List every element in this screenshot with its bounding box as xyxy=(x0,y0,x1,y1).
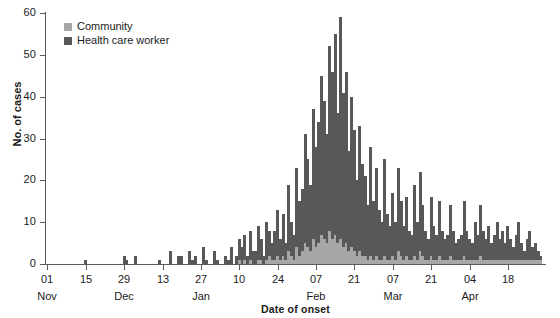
x-tick-label-8: 21 xyxy=(339,273,369,285)
y-tick-40 xyxy=(40,97,45,98)
x-tick-07-9 xyxy=(393,265,394,270)
y-tick-label-wrap: 60 xyxy=(0,7,36,18)
bar-segment-health-care-worker xyxy=(134,256,137,264)
x-month-label-dec: Dec xyxy=(104,290,144,302)
y-tick-label-wrap: 30 xyxy=(0,133,36,144)
x-month-label-apr: Apr xyxy=(450,290,490,302)
legend-item-community: Community xyxy=(64,20,169,33)
x-tick-label-0: 01 xyxy=(32,273,62,285)
x-month-label-feb: Feb xyxy=(296,290,336,302)
bar-stack xyxy=(180,256,183,264)
y-tick-50 xyxy=(40,55,45,56)
bar-segment-health-care-worker xyxy=(194,256,197,264)
bar-segment-health-care-worker xyxy=(180,256,183,264)
legend-swatch-health-care-worker xyxy=(64,37,72,45)
x-tick-label-12: 18 xyxy=(493,273,523,285)
bar-stack xyxy=(194,256,197,264)
x-tick-label-10: 21 xyxy=(416,273,446,285)
y-tick-0 xyxy=(40,264,45,265)
x-tick-18-12 xyxy=(508,265,509,270)
bar-stack xyxy=(134,256,137,264)
bar-stack xyxy=(84,260,87,264)
x-month-label-jan: Jan xyxy=(181,290,221,302)
bar-stack xyxy=(216,260,219,264)
x-tick-label-11: 04 xyxy=(455,273,485,285)
x-tick-04-11 xyxy=(470,265,471,270)
x-axis-title: Date of onset xyxy=(46,303,545,315)
x-tick-21-10 xyxy=(431,265,432,270)
x-tick-27-4 xyxy=(201,265,202,270)
y-tick-label-0: 0 xyxy=(8,258,36,269)
y-tick-label-50: 50 xyxy=(8,49,36,60)
y-tick-30 xyxy=(40,139,45,140)
bar-stack xyxy=(205,260,208,264)
bar-segment-health-care-worker xyxy=(158,260,161,264)
plot-area xyxy=(46,13,545,264)
bar-series-container xyxy=(46,13,545,264)
y-tick-label-wrap: 50 xyxy=(0,49,36,60)
y-tick-label-60: 60 xyxy=(8,7,36,18)
bar-segment-health-care-worker xyxy=(205,260,208,264)
x-tick-13-3 xyxy=(163,265,164,270)
y-tick-label-30: 30 xyxy=(8,133,36,144)
bar-stack xyxy=(125,260,128,264)
bar-stack xyxy=(169,251,172,264)
x-tick-24-6 xyxy=(278,265,279,270)
y-tick-label-wrap: 20 xyxy=(0,174,36,185)
x-tick-label-6: 24 xyxy=(263,273,293,285)
y-tick-label-wrap: 0 xyxy=(0,258,36,269)
bar-stack xyxy=(539,256,542,264)
bar-segment-health-care-worker xyxy=(125,260,128,264)
x-tick-29-2 xyxy=(124,265,125,270)
x-tick-15-1 xyxy=(86,265,87,270)
legend-label-health-care-worker: Health care worker xyxy=(77,35,169,46)
legend-label-community: Community xyxy=(77,21,133,32)
bar-segment-community xyxy=(539,260,542,264)
bar-segment-health-care-worker xyxy=(169,251,172,264)
y-axis-title: No. of cases xyxy=(11,64,23,164)
x-tick-label-7: 07 xyxy=(301,273,331,285)
x-month-label-mar: Mar xyxy=(373,290,413,302)
bar-segment-health-care-worker xyxy=(84,260,87,264)
x-tick-label-1: 15 xyxy=(71,273,101,285)
bar-segment-health-care-worker xyxy=(230,247,233,264)
bar-stack xyxy=(230,247,233,264)
x-tick-label-4: 27 xyxy=(186,273,216,285)
y-tick-10 xyxy=(40,222,45,223)
legend-item-health-care-worker: Health care worker xyxy=(64,34,169,47)
x-tick-label-3: 13 xyxy=(148,273,178,285)
y-tick-label-20: 20 xyxy=(8,174,36,185)
x-tick-10-5 xyxy=(239,265,240,270)
y-tick-60 xyxy=(40,13,45,14)
y-tick-label-40: 40 xyxy=(8,91,36,102)
x-tick-01-0 xyxy=(47,265,48,270)
x-tick-21-8 xyxy=(354,265,355,270)
y-tick-label-wrap: 10 xyxy=(0,216,36,227)
bar-segment-health-care-worker xyxy=(216,260,219,264)
x-tick-label-5: 10 xyxy=(224,273,254,285)
x-month-label-nov: Nov xyxy=(27,290,67,302)
bar-stack xyxy=(158,260,161,264)
bar-segment-health-care-worker xyxy=(539,256,542,260)
x-tick-label-9: 07 xyxy=(378,273,408,285)
x-tick-07-7 xyxy=(316,265,317,270)
legend: CommunityHealth care worker xyxy=(64,20,169,48)
x-tick-label-2: 29 xyxy=(109,273,139,285)
y-tick-label-wrap: 40 xyxy=(0,91,36,102)
y-tick-20 xyxy=(40,180,45,181)
legend-swatch-community xyxy=(64,23,72,31)
y-tick-label-10: 10 xyxy=(8,216,36,227)
epi-curve-figure: No. of cases 0102030405060 0115291327102… xyxy=(0,0,560,318)
